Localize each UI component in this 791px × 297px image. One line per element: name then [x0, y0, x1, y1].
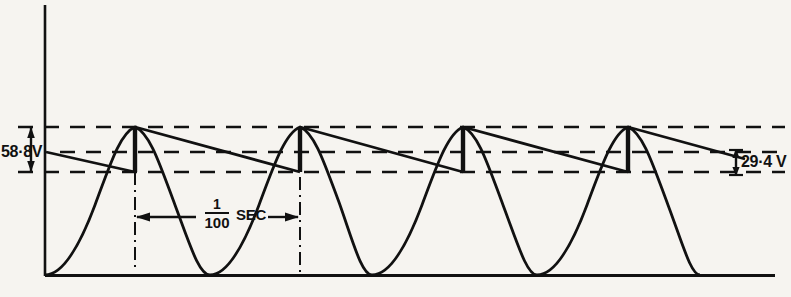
- period-fraction-denominator: 100: [199, 215, 235, 230]
- period-arrow-left-head: [136, 213, 150, 222]
- period-fraction: 1 100: [199, 198, 235, 230]
- rectified-sine-waveform: [45, 127, 700, 275]
- peak-voltage-arrow-down: [27, 161, 35, 172]
- sine-hump-4: [537, 127, 700, 275]
- ripple-voltage-label: 29·4 V: [741, 153, 786, 171]
- period-arrow-right-head: [285, 213, 299, 222]
- sine-hump-3: [372, 127, 537, 275]
- sine-hump-1: [45, 127, 210, 275]
- period-unit-label: SEC: [236, 206, 266, 223]
- waveform-svg: [0, 0, 791, 297]
- period-fraction-numerator: 1: [199, 198, 235, 211]
- peak-voltage-label: 58·8V: [1, 143, 42, 161]
- rectified-waveform-figure: 58·8V 29·4 V 1 100 SEC: [0, 0, 791, 297]
- peak-voltage-arrow-up: [27, 127, 35, 138]
- ripple-decay-4: [628, 127, 745, 159]
- ripple-lead-in: [46, 152, 135, 172]
- ripple-sawtooth-waveform: [46, 127, 745, 172]
